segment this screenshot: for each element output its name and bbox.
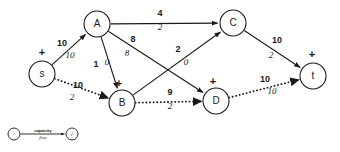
- edge-D-t: 10 10: [229, 74, 298, 97]
- edge-capacity-s-A: 10: [57, 38, 67, 48]
- node-label-B: B: [119, 97, 126, 108]
- legend-capacity-label: capacity: [34, 128, 52, 133]
- node-s[interactable]: s +: [29, 46, 55, 87]
- node-label-t: t: [312, 70, 315, 81]
- edge-B-C: 2 0: [133, 32, 220, 95]
- edge-capacity-B-D: 9: [167, 87, 172, 97]
- node-t[interactable]: t +: [300, 48, 326, 89]
- edge-capacity-A-B: 1: [93, 59, 98, 69]
- edge-flow-A-B: 0: [105, 57, 110, 67]
- node-C[interactable]: C: [220, 10, 246, 36]
- node-marker-s: +: [39, 46, 45, 58]
- edge-A-B: 1 0: [93, 37, 117, 88]
- edge-capacity-A-C: 4: [157, 8, 162, 18]
- edge-flow-D-t: 10: [268, 86, 278, 96]
- edge-flow-B-C: 0: [184, 57, 189, 67]
- edge-line-B-C: [133, 32, 220, 95]
- edge-capacity-D-t: 10: [260, 74, 270, 84]
- node-A[interactable]: A: [84, 11, 110, 37]
- edge-flow-B-D: 2: [168, 101, 173, 111]
- node-label-D: D: [212, 95, 219, 106]
- edge-flow-s-B: 2: [70, 92, 75, 102]
- edge-capacity-B-C: 2: [175, 44, 180, 54]
- edge-flow-A-C: 2: [158, 22, 163, 32]
- edge-line-A-C: [110, 23, 217, 24]
- edge-C-t: 10 2: [244, 30, 300, 67]
- edge-capacity-A-D: 8: [130, 34, 135, 44]
- edge-A-C: 4 2: [110, 8, 217, 32]
- node-label-C: C: [229, 17, 236, 28]
- network-flow-diagram-page: 10 10 10 2 4 2 1 0 8 8: [0, 0, 340, 152]
- edge-flow-A-D: 8: [125, 48, 130, 58]
- edge-A-D: 8 8: [108, 31, 203, 92]
- node-B[interactable]: B +: [109, 77, 135, 116]
- edge-capacity-s-B: 10: [73, 80, 83, 90]
- legend-flow-label: flow: [39, 135, 47, 140]
- edge-line-A-D: [108, 31, 203, 92]
- flow-network-diagram: 10 10 10 2 4 2 1 0 8 8: [0, 0, 340, 152]
- edge-capacity-C-t: 10: [272, 35, 282, 45]
- edge-s-A: 10 10: [52, 34, 86, 64]
- node-label-A: A: [94, 18, 101, 29]
- node-D[interactable]: D +: [203, 75, 229, 114]
- edge-s-B: 10 2: [55, 79, 108, 102]
- node-label-s: s: [40, 68, 45, 79]
- legend: i j capacity flow: [8, 128, 78, 140]
- edge-B-D: 9 2: [135, 87, 200, 111]
- node-marker-D: +: [210, 75, 216, 87]
- edge-flow-s-A: 10: [66, 50, 76, 60]
- node-marker-t: +: [309, 48, 315, 60]
- edge-flow-C-t: 2: [269, 50, 274, 60]
- node-marker-B: +: [116, 77, 122, 89]
